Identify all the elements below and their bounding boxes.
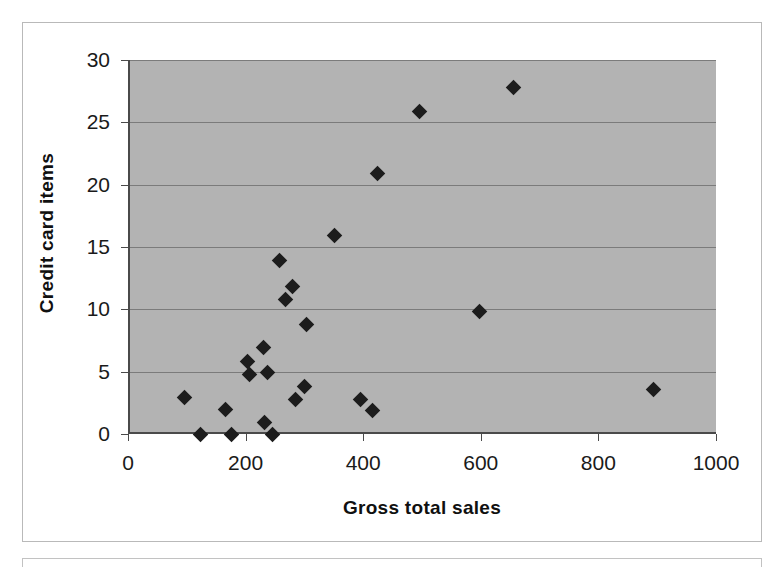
data-point — [296, 379, 312, 395]
data-point — [223, 426, 239, 442]
data-point — [326, 228, 342, 244]
data-point — [256, 340, 272, 356]
y-tick-label: 30 — [0, 49, 110, 70]
data-point — [364, 403, 380, 419]
y-tick-mark-5 — [121, 372, 128, 373]
data-point — [506, 80, 522, 96]
data-point — [176, 390, 192, 406]
data-point — [259, 365, 275, 381]
y-tick-mark-25 — [121, 122, 128, 123]
y-tick-mark-20 — [121, 185, 128, 186]
x-tick-label: 1000 — [666, 452, 766, 473]
plot-area — [128, 60, 716, 434]
data-point — [299, 317, 315, 333]
x-axis-title: Gross total sales — [128, 497, 716, 519]
data-point — [285, 279, 301, 295]
y-tick-mark-15 — [121, 247, 128, 248]
y-tick-mark-10 — [121, 309, 128, 310]
data-point — [472, 304, 488, 320]
data-point — [218, 401, 234, 417]
gridline-y-5 — [130, 372, 716, 373]
data-point — [353, 391, 369, 407]
data-point — [193, 426, 209, 442]
y-tick-label: 0 — [0, 423, 110, 444]
y-tick-label: 5 — [0, 361, 110, 382]
x-tick-label: 800 — [548, 452, 648, 473]
data-point — [646, 381, 662, 397]
x-tick-mark-0 — [128, 434, 129, 441]
gridline-y-30 — [130, 60, 716, 61]
data-point — [288, 391, 304, 407]
data-point — [265, 426, 281, 442]
scatter-chart: 051015202530 02004006008001000 Gross tot… — [0, 0, 784, 567]
data-point — [272, 253, 288, 269]
gridline-y-25 — [130, 122, 716, 123]
data-point — [277, 292, 293, 308]
y-axis-title: Credit card items — [36, 103, 58, 363]
x-tick-label: 0 — [78, 452, 178, 473]
x-tick-label: 400 — [313, 452, 413, 473]
x-tick-mark-1000 — [716, 434, 717, 441]
gridline-y-10 — [130, 309, 716, 310]
x-tick-mark-400 — [363, 434, 364, 441]
x-tick-mark-600 — [481, 434, 482, 441]
data-point — [370, 166, 386, 182]
x-tick-label: 600 — [431, 452, 531, 473]
screenshot-root: 051015202530 02004006008001000 Gross tot… — [0, 0, 784, 567]
x-tick-mark-200 — [246, 434, 247, 441]
data-point — [412, 103, 428, 119]
y-tick-mark-30 — [121, 60, 128, 61]
gridline-y-15 — [130, 247, 716, 248]
y-tick-mark-0 — [121, 434, 128, 435]
data-point — [242, 366, 258, 382]
x-tick-mark-800 — [598, 434, 599, 441]
gridline-y-20 — [130, 185, 716, 186]
x-tick-label: 200 — [196, 452, 296, 473]
